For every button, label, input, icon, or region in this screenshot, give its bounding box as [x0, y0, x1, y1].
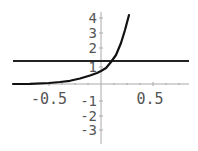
exponential-curve-series: [13, 15, 129, 84]
plot-area: -0.5 0.5 4 3 2 1 -1 -2 -3: [0, 0, 198, 151]
y-tick-label: 3: [89, 25, 97, 41]
y-tick-label: -1: [80, 93, 97, 109]
y-tick-label: 4: [89, 10, 97, 26]
x-tick-label: -0.5: [31, 90, 67, 108]
y-tick-label: 1: [89, 59, 97, 75]
y-tick-label: 2: [89, 40, 97, 56]
x-tick-label: 0.5: [136, 90, 163, 108]
y-tick-label: -3: [80, 122, 97, 138]
